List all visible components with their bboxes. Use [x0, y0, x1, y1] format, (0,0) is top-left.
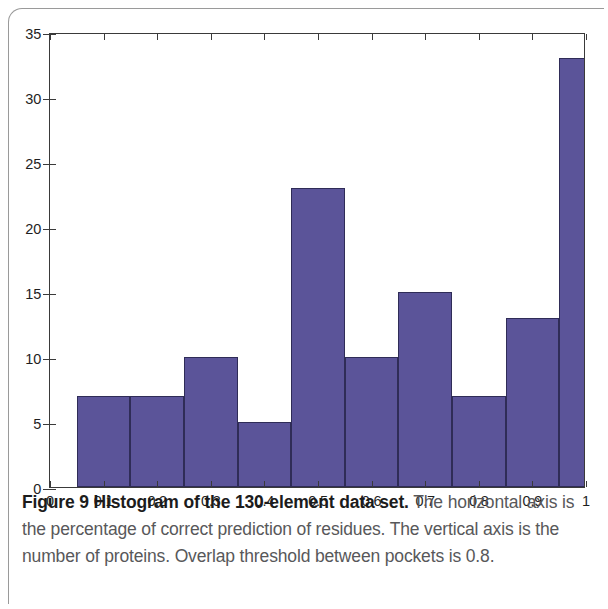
x-tick-top [425, 34, 426, 40]
histogram-bar [506, 318, 560, 487]
x-tick-top [532, 34, 533, 40]
figure-caption: Figure 9 Histogram of the 130-element da… [22, 489, 594, 570]
y-tick-inner [50, 424, 56, 425]
x-tick [586, 481, 587, 487]
x-tick [318, 481, 319, 487]
x-tick [211, 481, 212, 487]
y-tick-inner [50, 359, 56, 360]
x-tick-top [104, 34, 105, 40]
x-tick [532, 481, 533, 487]
x-tick [425, 481, 426, 487]
x-tick-top [211, 34, 212, 40]
y-axis-label: 15 [25, 286, 41, 302]
y-tick-inner [50, 294, 56, 295]
caption-title: Figure 9 Histogram of the 130-element da… [22, 492, 409, 512]
y-tick-inner [50, 229, 56, 230]
y-axis-label: 10 [25, 351, 41, 367]
x-tick-top [586, 34, 587, 40]
x-tick [372, 481, 373, 487]
y-axis-label: 20 [25, 221, 41, 237]
x-tick-top [479, 34, 480, 40]
histogram-chart: 05101520253035 00.10.20.30.40.50.60.70.8… [0, 18, 608, 480]
histogram-bar [238, 422, 292, 487]
x-tick [479, 481, 480, 487]
y-axis-label: 35 [25, 26, 41, 42]
histogram-bar [559, 58, 584, 487]
y-tick [43, 229, 50, 230]
figure-card: 05101520253035 00.10.20.30.40.50.60.70.8… [0, 0, 608, 609]
y-tick [43, 164, 50, 165]
x-tick-top [318, 34, 319, 40]
y-tick [43, 99, 50, 100]
histogram-bar [184, 357, 238, 487]
y-tick [43, 294, 50, 295]
y-tick [43, 359, 50, 360]
plot-area: 05101520253035 00.10.20.30.40.50.60.70.8… [49, 33, 585, 488]
x-tick [50, 481, 51, 487]
y-axis-label: 30 [25, 91, 41, 107]
histogram-bar [130, 396, 184, 487]
x-tick [104, 481, 105, 487]
y-tick [43, 424, 50, 425]
histogram-bar [452, 396, 506, 487]
x-tick-top [372, 34, 373, 40]
x-tick [264, 481, 265, 487]
x-tick [157, 481, 158, 487]
x-tick-top [157, 34, 158, 40]
x-tick-top [50, 34, 51, 40]
y-axis-label: 25 [25, 156, 41, 172]
y-tick-inner [50, 99, 56, 100]
histogram-bar [398, 292, 452, 487]
histogram-bar [291, 188, 345, 487]
y-axis-label: 5 [33, 416, 41, 432]
bars-layer [50, 34, 584, 487]
y-tick [43, 34, 50, 35]
histogram-bar [345, 357, 399, 487]
x-tick-top [264, 34, 265, 40]
histogram-bar [77, 396, 131, 487]
y-tick-inner [50, 164, 56, 165]
